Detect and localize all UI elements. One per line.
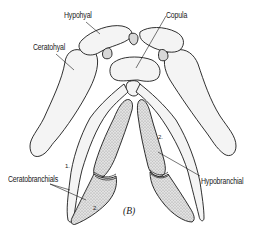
leader-ceratobranchial-1 [50, 184, 70, 190]
label-ceratohyal: Ceratohyal [33, 43, 65, 52]
copula-bone [110, 57, 160, 81]
hyoid-diagram [0, 0, 258, 231]
label-ceratobranchials: Ceratobranchials [8, 175, 58, 184]
number-ceratobranchial-2: 2. [93, 205, 98, 211]
number-ceratobranchial-1: 1. [65, 163, 70, 169]
right-hypohyal-bone [140, 28, 184, 53]
number-hypobranchial-2: 2. [158, 134, 163, 140]
label-hypobranchial: Hypobranchial [201, 177, 243, 186]
panel-label: (B) [123, 207, 135, 217]
right-ceratobranchial-2 [150, 172, 194, 222]
label-hypohyal: Hypohyal [64, 11, 92, 20]
center-top-nodule [129, 33, 138, 45]
right-nodule [159, 49, 169, 60]
left-nodule [103, 48, 113, 59]
label-copula: Copula [166, 11, 187, 20]
